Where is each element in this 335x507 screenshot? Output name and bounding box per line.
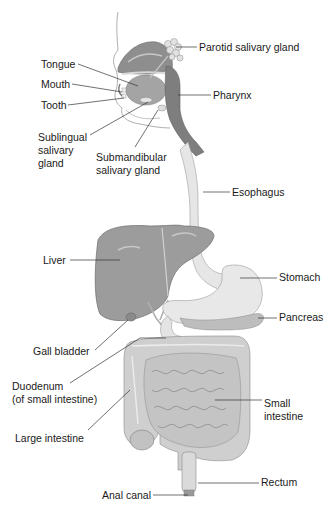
- label-duodenum: Duodenum (of small intestine): [12, 380, 97, 406]
- nasal-cavity: [118, 42, 172, 74]
- label-pancreas: Pancreas: [279, 311, 323, 324]
- leader-submandibular: [135, 110, 158, 147]
- gall-bladder-shape: [126, 313, 136, 321]
- label-pharynx: Pharynx: [213, 89, 252, 102]
- label-rectum: Rectum: [261, 476, 297, 489]
- leader-mouth: [72, 84, 122, 92]
- leader-gallbladder: [95, 320, 128, 350]
- label-gall-bladder: Gall bladder: [33, 345, 90, 358]
- label-anal-canal: Anal canal: [102, 489, 151, 502]
- label-tooth: Tooth: [41, 99, 67, 112]
- pharynx-shape: [165, 66, 204, 156]
- label-large-intestine: Large intestine: [15, 432, 84, 445]
- label-tongue: Tongue: [41, 58, 75, 71]
- label-small-intestine: Small intestine: [264, 397, 303, 423]
- leader-tooth: [68, 98, 124, 105]
- label-submandibular-salivary-gland: Submandibular salivary gland: [96, 151, 167, 177]
- rectum-shape: [182, 452, 196, 492]
- label-sublingual-salivary-gland: Sublingual salivary gland: [38, 131, 87, 170]
- label-liver: Liver: [43, 254, 66, 267]
- label-parotid-salivary-gland: Parotid salivary gland: [199, 41, 299, 54]
- label-esophagus: Esophagus: [232, 186, 285, 199]
- label-stomach: Stomach: [279, 271, 320, 284]
- digestive-system-diagram: Parotid salivary gland Tongue Mouth Phar…: [0, 0, 335, 507]
- leader-sublingual: [90, 102, 148, 135]
- label-mouth: Mouth: [41, 78, 70, 91]
